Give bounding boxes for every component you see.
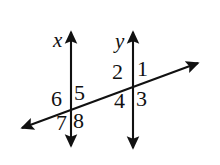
- angle-label-4: 4: [114, 90, 125, 112]
- geometry-figure: x y 1 2 3 4 5 6 7 8: [0, 0, 220, 165]
- angle-label-3: 3: [136, 88, 147, 110]
- angle-label-5: 5: [74, 82, 85, 104]
- angle-label-6: 6: [51, 88, 62, 110]
- angle-label-2: 2: [112, 61, 123, 83]
- transversal-line: [22, 63, 198, 128]
- geometry-canvas: [0, 0, 220, 165]
- line-label-x: x: [53, 30, 62, 51]
- angle-label-1: 1: [137, 58, 148, 80]
- angle-label-8: 8: [73, 110, 84, 132]
- angle-label-7: 7: [56, 112, 67, 134]
- line-label-y: y: [115, 31, 124, 52]
